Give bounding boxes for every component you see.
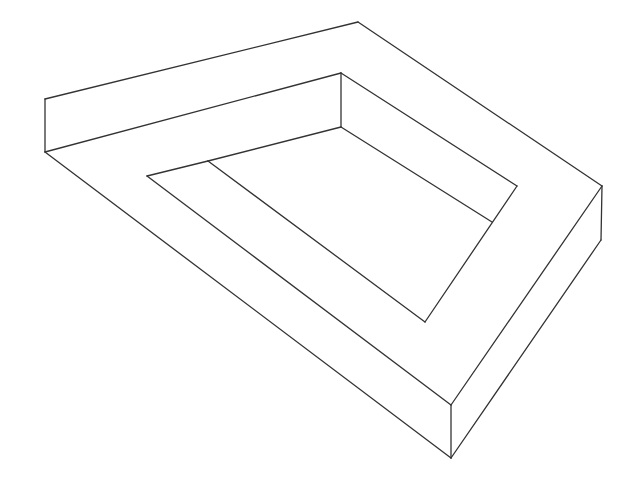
- edge-inner_left_a-to-front_top: [147, 176, 451, 405]
- edge-outer_left_bottom-to-front_bottom: [45, 152, 451, 458]
- edge-right_apex_top-to-right_apex_bottom: [601, 186, 602, 240]
- edge-outer_left_top-to-top_apex: [45, 22, 358, 99]
- edge-inner_corner_top-to-inner_right_top: [341, 73, 517, 186]
- edge-inner_corner_bottom-to-inner_right_junction: [341, 127, 492, 222]
- impossible-figure-canvas: [0, 0, 634, 487]
- edge-inner_left_b-to-inner_corner_bottom: [208, 127, 341, 161]
- edge-right_apex_top-to-front_top: [451, 186, 602, 405]
- edge-inner_left_b-to-inner_bottom: [208, 161, 425, 322]
- edge-inner_right_top-to-inner_bottom: [425, 186, 517, 322]
- impossible-frame-drawing: [0, 0, 634, 487]
- edge-inner_left_a-to-inner_left_b: [147, 161, 208, 176]
- edge-outer_left_bottom-to-inner_corner_top: [45, 73, 341, 152]
- edge-right_apex_bottom-to-front_bottom: [451, 240, 601, 458]
